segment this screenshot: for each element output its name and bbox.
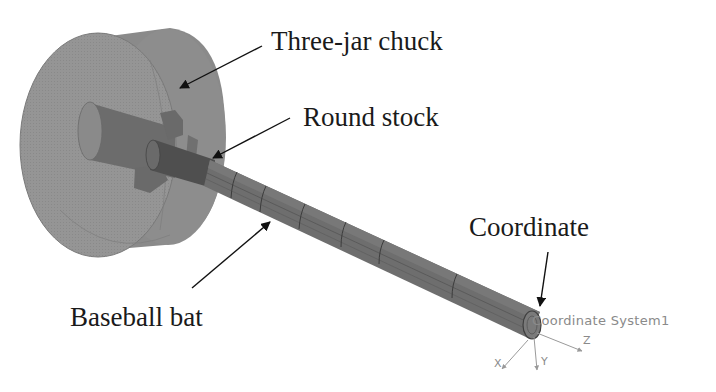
axis-y-label: Y [541,356,548,367]
round-stock-label: Round stock [303,104,439,131]
baseball-bat-shaft [204,160,541,339]
three-jaw-chuck-label: Three-jar chuck [271,28,443,55]
bat-callout-arrow [192,222,270,288]
axis-x-label: X [494,358,502,369]
coordinate-label: Coordinate [469,214,589,241]
coord-callout-arrow [540,252,548,306]
cad-figure: Three-jar chuck Round stock Baseball bat… [0,0,716,392]
three-jaw-chuck [20,28,226,257]
axis-z-label: Z [583,335,591,346]
baseball-bat-label: Baseball bat [70,304,203,331]
coordinate-system-annotation: Coordinate System1 [532,314,670,327]
cad-drawing [0,0,716,392]
